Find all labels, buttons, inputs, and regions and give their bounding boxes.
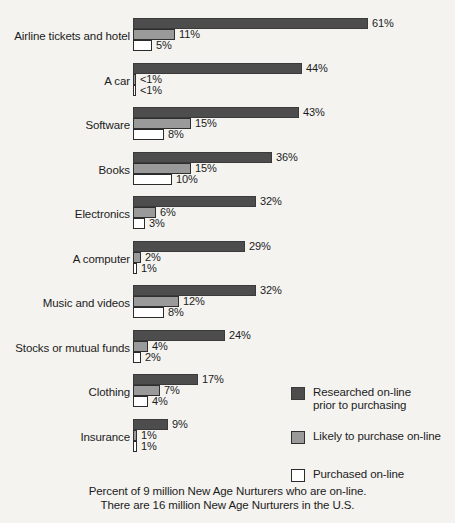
bar-s0 [133,330,225,341]
category-label: Insurance [0,431,130,444]
legend-label-line: Likely to purchase on-line [313,430,455,443]
bar-value-label: 2% [145,351,161,363]
bar-value-label: 61% [372,17,394,29]
bar-value-label: 4% [152,395,168,407]
category-label: Software [0,119,130,132]
bar-s0 [133,196,256,207]
researched-swatch [291,387,305,400]
legend-label-line: prior to purchasing [313,399,455,412]
legend-item[interactable]: Likely to purchase on-line [291,430,455,446]
bar-value-label: <1% [140,84,162,96]
bar-s2 [133,85,136,96]
bar-s1 [133,430,137,441]
category-label: Books [0,164,130,177]
bar-value-label: 43% [303,106,325,118]
category-label: Stocks or mutual funds [0,342,130,355]
legend-label: Likely to purchase on-line [313,430,455,443]
bar-value-label: 32% [260,284,282,296]
category-label: A car [0,75,130,88]
bar-value-label: 9% [172,418,188,430]
bar-s2 [133,129,164,140]
category-label: A computer [0,253,130,266]
bar-s2 [133,441,137,452]
bar-value-label: 5% [156,39,172,51]
bar-value-label: 10% [176,173,198,185]
bar-s2 [133,218,145,229]
legend-item[interactable]: Researched on-lineprior to purchasing [291,386,455,411]
footnote-line: Percent of 9 million New Age Nurturers w… [0,484,455,498]
bar-value-label: 11% [179,28,200,40]
bar-s0 [133,18,368,29]
legend-label: Researched on-lineprior to purchasing [313,386,455,411]
legend-label-line: Researched on-line [313,386,455,399]
bar-value-label: 15% [195,117,217,129]
chart-footnote: Percent of 9 million New Age Nurturers w… [0,484,455,512]
bar-value-label: 12% [183,295,205,307]
bar-value-label: 24% [229,329,251,341]
category-label: Music and videos [0,297,130,310]
bar-s2 [133,352,141,363]
legend-item[interactable]: Purchased on-line [291,468,455,484]
bar-value-label: 15% [195,162,217,174]
bar-value-label: 3% [149,217,165,229]
bar-s2 [133,263,137,274]
bar-s1 [133,74,136,85]
bar-value-label: 32% [260,195,282,207]
chart-page: Airline tickets and hotel61%11%5%A car44… [0,0,455,523]
likely-swatch [291,431,305,444]
category-label: Airline tickets and hotel [0,30,130,43]
bar-value-label: 17% [202,373,224,385]
bar-s1 [133,252,141,263]
bar-value-label: 44% [306,62,328,74]
bar-value-label: 1% [141,440,157,452]
category-label: Clothing [0,386,130,399]
purchased-swatch [291,469,305,482]
footnote-line: There are 16 million New Age Nurturers i… [0,498,455,512]
bar-value-label: 36% [276,151,298,163]
bar-value-label: 8% [168,128,184,140]
bar-s2 [133,40,152,51]
bar-value-label: 1% [141,262,157,274]
bar-s2 [133,174,172,185]
bar-value-label: 29% [249,240,271,252]
legend-label: Purchased on-line [313,468,455,481]
category-label: Electronics [0,208,130,221]
bar-s2 [133,396,148,407]
bar-value-label: 8% [168,306,184,318]
legend-label-line: Purchased on-line [313,468,455,481]
bar-s2 [133,307,164,318]
